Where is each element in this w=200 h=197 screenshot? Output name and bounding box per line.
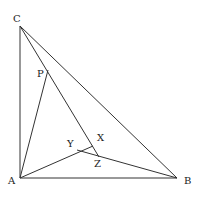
label-c: C [13,13,21,24]
label-a: A [7,175,16,186]
label-b: B [184,175,191,186]
segment-ap [20,70,48,178]
segment-ax [20,146,93,178]
geometry-diagram: C P X Y Z A B [0,0,200,197]
label-x: X [97,132,105,143]
label-p: P [37,68,44,79]
label-y: Y [66,138,74,149]
label-z: Z [94,158,101,169]
segment-cb [20,26,177,178]
